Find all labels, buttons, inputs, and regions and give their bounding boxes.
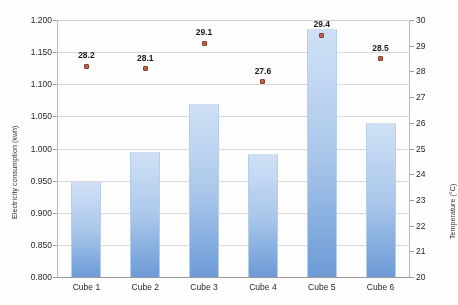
y-axis-right-tick-label: 27 [416, 92, 442, 102]
y-axis-left-tick-mark [53, 149, 57, 150]
y-axis-left: 0.8000.8500.9000.9501.0001.0501.1001.150… [0, 0, 52, 305]
y-axis-left-tick-mark [53, 277, 57, 278]
temperature-marker-cube-2 [143, 66, 148, 71]
y-axis-right-tick-label: 21 [416, 246, 442, 256]
y-axis-right-tick-mark [410, 149, 414, 150]
x-axis-categories: Cube 1Cube 2Cube 3Cube 4Cube 5Cube 6 [57, 282, 410, 302]
category-label-cube-5: Cube 5 [308, 282, 335, 292]
y-axis-right-tick-mark [410, 277, 414, 278]
temperature-data-label: 28.1 [137, 53, 154, 63]
y-axis-right-tick-mark [410, 200, 414, 201]
temperature-marker-cube-3 [202, 41, 207, 46]
temperature-marker-cube-4 [260, 79, 265, 84]
bar-cube-2 [130, 152, 160, 277]
y-axis-left-tick-label: 0.900 [8, 208, 52, 218]
temperature-data-label: 28.2 [78, 50, 95, 60]
y-axis-left-tick-label: 1.050 [8, 111, 52, 121]
bar-cube-4 [248, 154, 278, 277]
gridline [57, 181, 410, 182]
y-axis-left-tick-label: 1.150 [8, 47, 52, 57]
gridline [57, 84, 410, 85]
y-axis-left-tick-label: 0.850 [8, 240, 52, 250]
bar-cube-6 [366, 123, 396, 277]
y-axis-right-tick-label: 25 [416, 144, 442, 154]
gridline [57, 245, 410, 246]
gridline [57, 52, 410, 53]
y-axis-right-tick-label: 29 [416, 41, 442, 51]
temperature-data-label: 29.4 [313, 19, 330, 29]
y-axis-left-tick-label: 0.950 [8, 176, 52, 186]
y-axis-right-tick-mark [410, 71, 414, 72]
category-label-cube-2: Cube 2 [132, 282, 159, 292]
gridline [57, 20, 410, 21]
bar-cube-5 [307, 29, 337, 277]
y-axis-right: 2021222324252627282930 [410, 0, 440, 305]
y-axis-left-tick-label: 1.100 [8, 79, 52, 89]
y-axis-left-tick-label: 0.800 [8, 272, 52, 282]
chart-container: Electricity consumption (kwh) Temperatur… [0, 0, 458, 305]
y-axis-right-tick-label: 26 [416, 118, 442, 128]
y-axis-left-tick-label: 1.200 [8, 15, 52, 25]
y-axis-right-tick-mark [410, 20, 414, 21]
y-axis-left-tick-mark [53, 116, 57, 117]
y-axis-left-tick-mark [53, 245, 57, 246]
y-axis-left-tick-mark [53, 181, 57, 182]
y-axis-right-title: Temperature (°C) [449, 184, 456, 239]
temperature-marker-cube-1 [84, 64, 89, 69]
category-label-cube-1: Cube 1 [73, 282, 100, 292]
temperature-data-label: 29.1 [196, 27, 213, 37]
gridline [57, 116, 410, 117]
y-axis-right-tick-label: 24 [416, 169, 442, 179]
y-axis-left-tick-mark [53, 20, 57, 21]
temperature-marker-cube-5 [319, 33, 324, 38]
y-axis-right-tick-label: 30 [416, 15, 442, 25]
temperature-marker-cube-6 [378, 56, 383, 61]
bar-cube-1 [71, 182, 101, 277]
y-axis-right-tick-mark [410, 226, 414, 227]
plot-area: 28.228.129.127.629.428.5 [57, 20, 410, 277]
gridline [57, 213, 410, 214]
bar-cube-3 [189, 104, 219, 277]
y-axis-left-tick-mark [53, 213, 57, 214]
y-axis-right-tick-label: 22 [416, 221, 442, 231]
y-axis-left-tick-mark [53, 84, 57, 85]
temperature-data-label: 28.5 [372, 43, 389, 53]
temperature-data-label: 27.6 [255, 66, 272, 76]
category-label-cube-4: Cube 4 [249, 282, 276, 292]
y-axis-right-tick-mark [410, 123, 414, 124]
category-label-cube-3: Cube 3 [190, 282, 217, 292]
axis-line-bottom [57, 277, 410, 278]
y-axis-left-tick-mark [53, 52, 57, 53]
y-axis-left-tick-label: 1.000 [8, 144, 52, 154]
gridline [57, 149, 410, 150]
y-axis-right-tick-label: 28 [416, 66, 442, 76]
y-axis-right-tick-mark [410, 251, 414, 252]
y-axis-right-tick-label: 23 [416, 195, 442, 205]
y-axis-right-tick-mark [410, 174, 414, 175]
y-axis-right-tick-label: 20 [416, 272, 442, 282]
y-axis-right-tick-mark [410, 46, 414, 47]
category-label-cube-6: Cube 6 [367, 282, 394, 292]
y-axis-right-tick-mark [410, 97, 414, 98]
